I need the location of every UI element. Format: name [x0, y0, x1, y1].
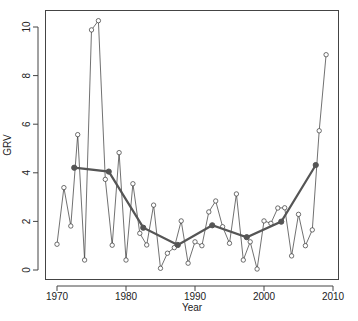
- data-point: [296, 212, 300, 216]
- mean-point: [141, 225, 146, 230]
- x-tick-label: 1980: [115, 291, 138, 302]
- x-tick-label: 2000: [253, 291, 276, 302]
- mean-point: [313, 162, 318, 167]
- data-point: [324, 53, 328, 57]
- grv-time-series-chart: 0246810 19701980199020002010 Year GRV: [0, 0, 358, 321]
- data-point: [276, 206, 280, 210]
- x-axis: 19701980199020002010: [46, 286, 345, 302]
- y-axis: 0246810: [21, 21, 38, 273]
- data-point: [145, 243, 149, 247]
- data-point: [248, 240, 252, 244]
- y-tick-label: 10: [21, 21, 32, 33]
- data-point: [283, 206, 287, 210]
- data-point: [138, 231, 142, 235]
- data-point: [69, 224, 73, 228]
- data-point: [55, 242, 59, 246]
- data-point: [227, 241, 231, 245]
- data-point: [89, 28, 93, 32]
- data-point: [82, 258, 86, 262]
- data-point: [234, 192, 238, 196]
- y-tick-label: 2: [21, 218, 32, 224]
- mean-line: [74, 165, 315, 245]
- data-point: [179, 219, 183, 223]
- data-point: [62, 185, 66, 189]
- x-tick-label: 1990: [184, 291, 207, 302]
- data-point: [193, 240, 197, 244]
- mean-point: [175, 242, 180, 247]
- data-point: [255, 267, 259, 271]
- x-tick-label: 2010: [322, 291, 345, 302]
- data-point: [200, 244, 204, 248]
- x-axis-label: Year: [182, 302, 203, 313]
- data-point: [186, 261, 190, 265]
- data-point: [214, 199, 218, 203]
- mean-point: [72, 165, 77, 170]
- data-point: [317, 129, 321, 133]
- data-point: [262, 219, 266, 223]
- y-tick-label: 8: [21, 72, 32, 78]
- data-point: [96, 18, 100, 22]
- mean-point: [210, 223, 215, 228]
- data-point: [131, 182, 135, 186]
- data-point: [158, 266, 162, 270]
- annual-line: [57, 21, 326, 269]
- data-point: [207, 210, 211, 214]
- y-axis-label: GRV: [2, 134, 13, 156]
- data-point: [110, 243, 114, 247]
- series-layer: [55, 18, 329, 271]
- data-point: [289, 254, 293, 258]
- mean-point: [106, 169, 111, 174]
- data-point: [151, 203, 155, 207]
- data-point: [303, 244, 307, 248]
- data-point: [124, 258, 128, 262]
- y-tick-label: 6: [21, 121, 32, 127]
- data-point: [117, 150, 121, 154]
- y-tick-label: 4: [21, 170, 32, 176]
- data-point: [76, 132, 80, 136]
- y-tick-label: 0: [21, 267, 32, 273]
- data-point: [241, 258, 245, 262]
- x-tick-label: 1970: [46, 291, 69, 302]
- mean-point: [244, 235, 249, 240]
- data-point: [310, 228, 314, 232]
- data-point: [165, 251, 169, 255]
- mean-point: [279, 219, 284, 224]
- data-point: [103, 177, 107, 181]
